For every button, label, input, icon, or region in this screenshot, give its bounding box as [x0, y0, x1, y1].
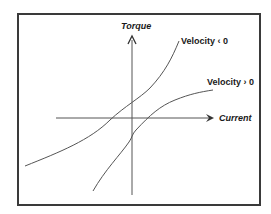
torque-axis-label: Torque [121, 21, 151, 31]
curve-velocity-negative [25, 41, 179, 166]
current-axis-label: Current [219, 113, 252, 123]
curve-label-velocity-negative: Velocity ‹ 0 [181, 36, 228, 46]
curve-velocity-positive [93, 90, 213, 191]
torque-current-plot [0, 0, 271, 214]
curve-label-velocity-positive: Velocity › 0 [207, 77, 254, 87]
